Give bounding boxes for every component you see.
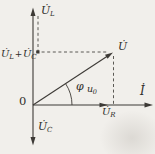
label-ur-sub: R [110, 111, 115, 119]
vertical-axis [31, 8, 36, 146]
down-arrowhead-icon [31, 137, 36, 146]
label-sum-rhs: U̇ [23, 48, 31, 59]
vector-u [33, 52, 113, 105]
right-arrowhead-icon [145, 103, 154, 108]
origin-label: 0 [19, 96, 26, 108]
u0-sub: 0 [93, 88, 97, 96]
u0-label: u0 [87, 84, 97, 95]
phasor-diagram: U̇L U̇L+U̇C U̇ İ U̇R U̇C 0 φ u0 [0, 0, 155, 154]
label-u-main: U̇ [118, 40, 127, 53]
current-axis [33, 103, 153, 108]
label-uc-sub: C [47, 126, 52, 134]
vector-u-arrowhead-icon [105, 52, 113, 58]
label-ur: U̇R [102, 107, 115, 119]
label-ul-sub: L [50, 10, 55, 18]
vector-u-line [33, 56, 108, 105]
label-uc-main: U̇ [38, 120, 47, 133]
diagram-geometry [0, 0, 155, 154]
label-ur-main: U̇ [102, 106, 110, 117]
label-i-main: İ [140, 84, 144, 98]
phi-label: φ [76, 81, 83, 92]
plus-sign: + [14, 49, 23, 59]
label-ul: U̇L [41, 5, 55, 18]
up-arrowhead-icon [31, 8, 36, 17]
label-current-axis: İ [140, 85, 144, 97]
label-u: U̇ [118, 41, 127, 52]
label-sum-rhs-sub: C [31, 53, 36, 61]
label-ul-plus-uc: U̇L+U̇C [1, 49, 37, 61]
label-uc: U̇C [38, 121, 52, 134]
label-ul-main: U̇ [41, 4, 50, 17]
phi-angle-arc [66, 84, 72, 105]
label-sum-lhs: U̇ [1, 48, 9, 59]
